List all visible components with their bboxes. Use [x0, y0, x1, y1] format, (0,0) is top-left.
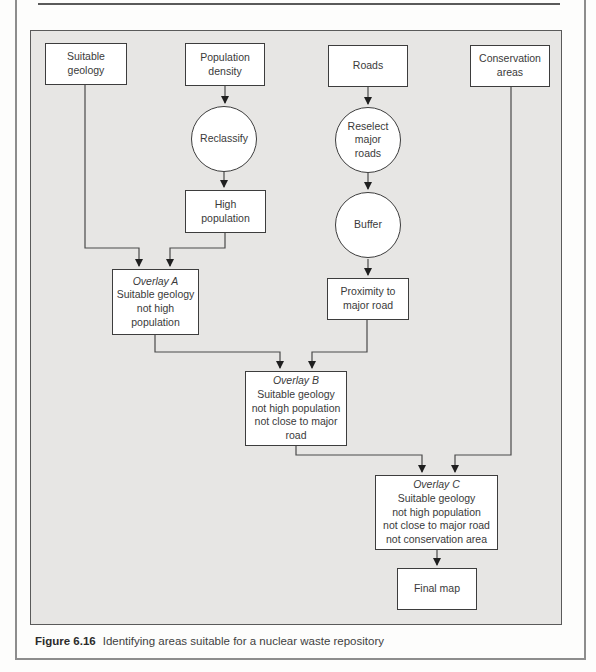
- node-proximity-label: Proximity to major road: [341, 285, 396, 312]
- top-rule: [38, 3, 560, 5]
- node-roads: Roads: [328, 45, 408, 87]
- node-suitable-geology: Suitable geology: [45, 43, 127, 85]
- figure-caption-number: Figure 6.16: [35, 635, 96, 647]
- node-final-map-label: Final map: [414, 582, 460, 596]
- node-overlay-b: Overlay B Suitable geology not high popu…: [245, 371, 347, 446]
- node-roads-label: Roads: [353, 59, 383, 73]
- node-overlay-c: Overlay C Suitable geology not high popu…: [375, 475, 498, 550]
- node-buffer-label: Buffer: [354, 218, 382, 232]
- node-suitable-geology-label: Suitable geology: [67, 50, 105, 77]
- node-high-population-label: High population: [201, 198, 249, 225]
- node-reselect-major-roads: Reselect major roads: [335, 107, 401, 173]
- frame-left-rule: [15, 0, 17, 660]
- node-reselect-major-roads-label: Reselect major roads: [348, 120, 389, 161]
- frame-right-rule: [584, 0, 586, 660]
- figure-caption: Figure 6.16Identifying areas suitable fo…: [35, 635, 384, 647]
- frame-bottom-rule: [15, 658, 585, 660]
- figure-page: Suitable geology Population density Road…: [0, 0, 596, 672]
- figure-caption-text: Identifying areas suitable for a nuclear…: [103, 635, 384, 647]
- node-population-density-label: Population density: [200, 51, 250, 78]
- node-overlay-c-label: Suitable geology not high population not…: [383, 492, 490, 547]
- node-overlay-c-title: Overlay C: [413, 478, 460, 492]
- node-reclassify: Reclassify: [191, 106, 257, 172]
- node-proximity-to-major-road: Proximity to major road: [327, 278, 409, 320]
- node-overlay-a-title: Overlay A: [133, 275, 179, 289]
- node-overlay-a: Overlay A Suitable geology not high popu…: [112, 269, 199, 335]
- node-overlay-b-title: Overlay B: [273, 374, 319, 388]
- node-final-map: Final map: [397, 568, 477, 610]
- node-high-population: High population: [185, 190, 266, 233]
- node-overlay-a-label: Suitable geology not high population: [117, 288, 195, 329]
- node-conservation-areas-label: Conservation areas: [479, 52, 541, 79]
- node-conservation-areas: Conservation areas: [470, 45, 550, 87]
- node-population-density: Population density: [185, 43, 265, 86]
- node-reclassify-label: Reclassify: [200, 132, 248, 146]
- node-buffer: Buffer: [335, 192, 401, 258]
- node-overlay-b-label: Suitable geology not high population not…: [252, 388, 341, 443]
